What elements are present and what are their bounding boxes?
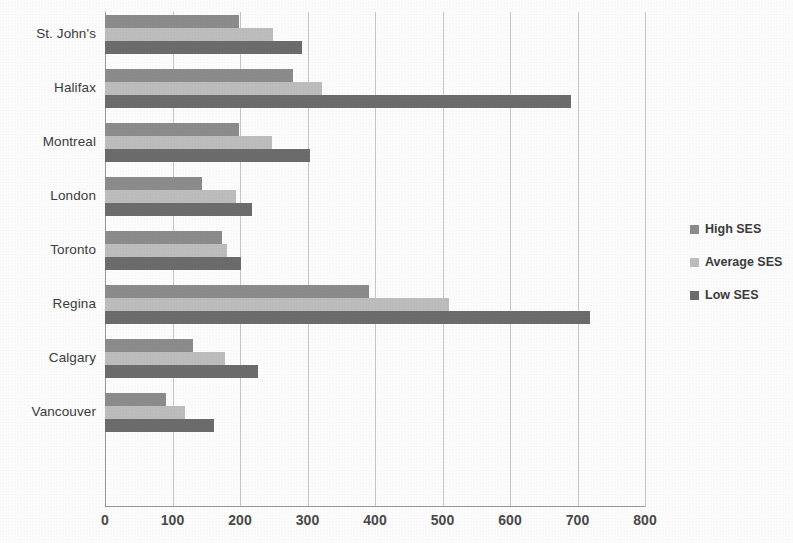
bar	[105, 41, 302, 54]
legend-swatch-icon	[690, 258, 699, 267]
legend-item[interactable]: High SES	[690, 222, 790, 236]
category-axis-labels: St. John'sHalifaxMontrealLondonTorontoRe…	[0, 12, 96, 507]
bar	[105, 365, 258, 378]
x-tick-label: 200	[228, 512, 251, 528]
bar	[105, 177, 202, 190]
gridline-800	[645, 12, 646, 507]
x-tick-label: 700	[566, 512, 589, 528]
x-tick-label: 400	[363, 512, 386, 528]
bar	[105, 190, 236, 203]
bar-group	[105, 69, 645, 108]
bar	[105, 311, 590, 324]
bar	[105, 15, 239, 28]
bar-group	[105, 339, 645, 378]
bar	[105, 244, 227, 257]
bar	[105, 352, 225, 365]
bar-group	[105, 177, 645, 216]
x-tick-label: 500	[431, 512, 454, 528]
legend-swatch-icon	[690, 225, 699, 234]
bar	[105, 123, 239, 136]
bar	[105, 203, 252, 216]
x-tick-label: 300	[296, 512, 319, 528]
bar-group	[105, 231, 645, 270]
x-tick-label: 100	[161, 512, 184, 528]
legend: High SESAverage SESLow SES	[690, 222, 790, 321]
bar	[105, 393, 166, 406]
bar	[105, 28, 273, 41]
category-label: Vancouver	[0, 404, 96, 419]
x-tick-label: 600	[498, 512, 521, 528]
bar-groups	[105, 12, 645, 507]
bar-chart: St. John'sHalifaxMontrealLondonTorontoRe…	[0, 0, 793, 543]
legend-label: Low SES	[705, 288, 758, 302]
bar	[105, 136, 272, 149]
legend-item[interactable]: Average SES	[690, 255, 790, 269]
bar	[105, 406, 185, 419]
legend-swatch-icon	[690, 291, 699, 300]
bar	[105, 82, 322, 95]
category-label: Montreal	[0, 134, 96, 149]
x-axis-line	[105, 506, 645, 507]
bar-group	[105, 285, 645, 324]
bar	[105, 231, 222, 244]
category-label: Regina	[0, 296, 96, 311]
plot-area	[105, 12, 645, 507]
bar-group	[105, 393, 645, 432]
x-tick-label: 0	[101, 512, 109, 528]
legend-label: High SES	[705, 222, 761, 236]
x-axis-tick-labels: 0100200300400500600700800	[105, 512, 645, 538]
bar-group	[105, 15, 645, 54]
category-label: London	[0, 188, 96, 203]
x-tick-label: 800	[633, 512, 656, 528]
bar-group	[105, 123, 645, 162]
bar	[105, 285, 369, 298]
legend-label: Average SES	[705, 255, 782, 269]
bar	[105, 419, 214, 432]
bar	[105, 257, 241, 270]
category-label: St. John's	[0, 26, 96, 41]
bar	[105, 95, 571, 108]
category-label: Toronto	[0, 242, 96, 257]
legend-item[interactable]: Low SES	[690, 288, 790, 302]
category-label: Calgary	[0, 350, 96, 365]
category-label: Halifax	[0, 80, 96, 95]
bar	[105, 339, 193, 352]
bar	[105, 149, 310, 162]
bar	[105, 69, 293, 82]
bar	[105, 298, 449, 311]
